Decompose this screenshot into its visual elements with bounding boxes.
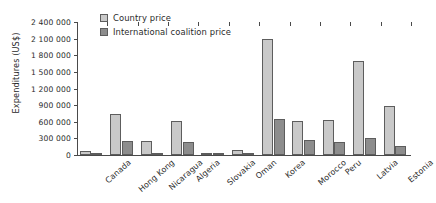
legend-swatch-icon <box>100 28 108 36</box>
bar-nicaragua-coalition-price <box>152 153 163 155</box>
x-axis-label-latvia: Latvia <box>375 158 400 181</box>
plot-area: 0300 000600 000900 0001 200 0001 500 000… <box>77 22 411 155</box>
bar-slovakia-country-price <box>201 153 212 155</box>
bar-latvia-country-price <box>353 61 364 155</box>
x-axis-tick <box>320 22 321 26</box>
bar-morocco-coalition-price <box>304 140 315 155</box>
x-axis-tick <box>77 22 78 26</box>
chart-legend: Country price International coalition pr… <box>100 12 231 40</box>
y-axis-tick <box>74 55 77 56</box>
x-axis-tick <box>411 22 412 26</box>
x-axis-label-estonia: Estonia <box>407 158 436 185</box>
x-axis-label-oman: Oman <box>254 158 278 181</box>
legend-item-label: Country price <box>113 13 171 23</box>
bar-hong-kong-country-price <box>110 114 121 155</box>
y-axis-tick <box>74 89 77 90</box>
bar-algeria-country-price <box>171 121 182 155</box>
legend-item-label: International coalition price <box>113 27 231 37</box>
y-axis-tick <box>74 122 77 123</box>
legend-item-country-price: Country price <box>100 12 231 23</box>
x-axis-label-korea: Korea <box>284 158 307 180</box>
x-axis-tick <box>381 22 382 26</box>
y-axis-tick-label: 1 200 000 <box>31 84 71 93</box>
bar-slovakia-coalition-price <box>213 153 224 155</box>
y-axis-tick-label: 900 000 <box>39 101 71 110</box>
bar-oman-coalition-price <box>243 153 254 155</box>
y-axis-tick <box>74 72 77 73</box>
bar-estonia-coalition-price <box>395 146 406 155</box>
y-axis-tick <box>74 105 77 106</box>
y-axis-tick-label: 0 <box>66 151 71 160</box>
bar-canada-country-price <box>80 151 91 155</box>
x-axis-label-slovakia: Slovakia <box>226 158 258 187</box>
bar-latvia-coalition-price <box>365 138 376 155</box>
x-axis-label-canada: Canada <box>103 158 132 185</box>
x-axis-line <box>77 155 411 156</box>
y-axis-title: Expenditures (US$) <box>11 8 21 138</box>
bar-korea-coalition-price <box>274 119 285 155</box>
bar-morocco-country-price <box>292 121 303 155</box>
bar-algeria-coalition-price <box>183 142 194 155</box>
y-axis-tick <box>74 155 77 156</box>
bar-estonia-country-price <box>384 106 395 155</box>
x-axis-tick <box>290 22 291 26</box>
x-axis-tick <box>259 22 260 26</box>
bar-hong-kong-coalition-price <box>122 141 133 155</box>
y-axis-tick <box>74 39 77 40</box>
bar-peru-coalition-price <box>334 142 345 155</box>
y-axis-tick <box>74 138 77 139</box>
bar-canada-coalition-price <box>91 153 102 155</box>
legend-item-international-coalition-price: International coalition price <box>100 26 231 37</box>
x-axis-label-morocco: Morocco <box>317 158 349 187</box>
bar-nicaragua-country-price <box>141 141 152 155</box>
bar-korea-country-price <box>262 39 273 155</box>
x-axis-tick <box>350 22 351 26</box>
y-axis-tick-label: 2 400 000 <box>31 18 71 27</box>
y-axis-tick-label: 2 100 000 <box>31 34 71 43</box>
y-axis-tick-label: 300 000 <box>39 134 71 143</box>
y-axis-tick-label: 600 000 <box>39 117 71 126</box>
legend-swatch-icon <box>100 14 108 22</box>
y-axis-tick-label: 1 800 000 <box>31 51 71 60</box>
bar-peru-country-price <box>323 120 334 155</box>
y-axis-tick-label: 1 500 000 <box>31 67 71 76</box>
x-axis-label-peru: Peru <box>343 158 363 177</box>
bar-oman-country-price <box>232 150 243 155</box>
